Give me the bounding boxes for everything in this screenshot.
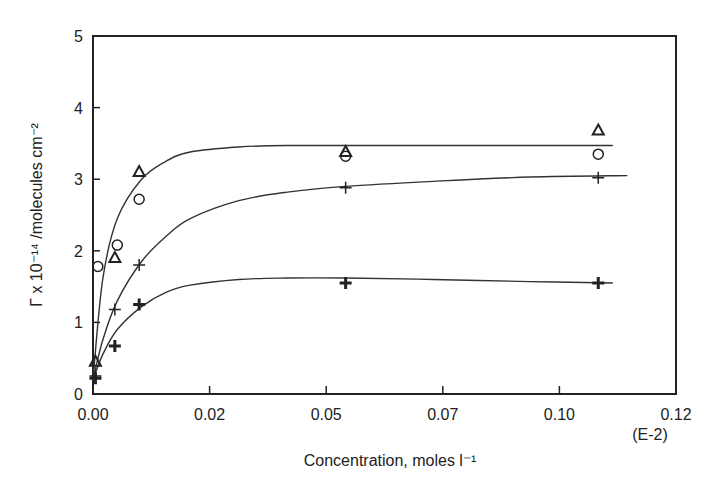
fit-curves (93, 145, 627, 379)
bold-plus-marker (340, 277, 352, 289)
x-tick-label: 0.05 (311, 406, 342, 423)
triangle-marker (134, 166, 145, 176)
circle-marker (593, 149, 603, 159)
x-tick-label: 0.07 (427, 406, 458, 423)
x-tick-label: 0.10 (544, 406, 575, 423)
y-tick-label: 5 (74, 28, 83, 45)
circle-marker (93, 262, 103, 272)
y-axis-title: Γ x 10⁻¹⁴ /molecules cm⁻² (28, 122, 45, 306)
y-tick-label: 0 (74, 386, 83, 403)
bold-plus-marker (133, 299, 145, 311)
x-tick-label: 0.12 (660, 406, 691, 423)
x-tick-label: 0.02 (194, 406, 225, 423)
circle-marker (134, 194, 144, 204)
circle-marker (112, 240, 122, 250)
triangle-marker (109, 252, 120, 262)
y-tick-label: 1 (74, 314, 83, 331)
triangle-marker (90, 356, 101, 366)
plus-marker (592, 172, 604, 184)
data-points (89, 125, 604, 385)
y-tick-label: 2 (74, 243, 83, 260)
lower-fit-curve (93, 278, 613, 380)
y-tick-label: 4 (74, 100, 83, 117)
plus-marker (109, 304, 121, 316)
bold-plus-marker (592, 277, 604, 289)
x-axis: 0.000.020.050.070.100.12 (77, 386, 691, 423)
plot-frame (93, 36, 676, 394)
plus-marker (133, 259, 145, 271)
adsorption-chart: 012345 0.000.020.050.070.100.12 (E-2) Co… (0, 0, 714, 480)
triangle-marker (593, 125, 604, 135)
x-multiplier-label: (E-2) (632, 426, 668, 443)
plus-marker (340, 182, 352, 194)
x-tick-label: 0.00 (77, 406, 108, 423)
y-tick-label: 3 (74, 171, 83, 188)
upper-fit-curve (93, 145, 613, 379)
bold-plus-marker (109, 340, 121, 352)
x-axis-title: Concentration, moles l⁻¹ (304, 452, 477, 469)
bold-plus-marker (89, 372, 101, 384)
